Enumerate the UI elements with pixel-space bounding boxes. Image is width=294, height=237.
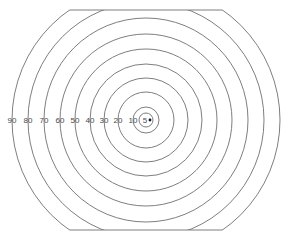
ring-label-90: 90 <box>8 116 17 125</box>
ring-label-40: 40 <box>86 116 95 125</box>
center-dot-icon <box>149 119 152 122</box>
ring-label-20: 20 <box>114 116 123 125</box>
ring-label-70: 70 <box>40 116 49 125</box>
ring-labels: 5102030405060708090 <box>8 116 148 125</box>
ring-label-60: 60 <box>56 116 65 125</box>
ring-label-80: 80 <box>24 116 33 125</box>
ring-label-10: 10 <box>129 116 138 125</box>
ring-label-30: 30 <box>100 116 109 125</box>
ring-label-5: 5 <box>143 116 148 125</box>
ring-label-50: 50 <box>71 116 80 125</box>
ring-target-diagram: 5102030405060708090 <box>0 0 294 237</box>
